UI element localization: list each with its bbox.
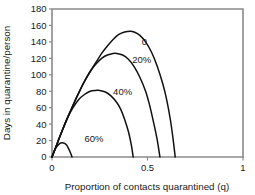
chart-figure: 020406080100120140160180 00.51 020%40%60… bbox=[0, 0, 255, 195]
chart-axes bbox=[52, 9, 243, 157]
y-tick-label: 20 bbox=[36, 135, 47, 146]
curve-series-3 bbox=[52, 143, 72, 157]
y-tick-label: 60 bbox=[36, 102, 47, 113]
chart-tick-marks bbox=[49, 9, 243, 161]
y-axis-title: Days in quarantine/person bbox=[1, 26, 12, 140]
x-tick-label: 0.5 bbox=[141, 162, 154, 173]
y-tick-label: 40 bbox=[36, 119, 47, 130]
y-tick-label: 140 bbox=[31, 36, 47, 47]
x-axis-title: Proportion of contacts quarantined (q) bbox=[65, 181, 229, 192]
y-tick-label: 0 bbox=[41, 151, 46, 162]
curve-label-0: 0 bbox=[142, 36, 147, 47]
y-tick-label: 120 bbox=[31, 53, 47, 64]
curve-series-1 bbox=[52, 53, 160, 157]
x-axis-tick-labels: 00.51 bbox=[49, 162, 245, 173]
y-tick-label: 80 bbox=[36, 86, 47, 97]
y-tick-label: 160 bbox=[31, 20, 47, 31]
curve-label-3: 60% bbox=[84, 133, 104, 144]
x-tick-label: 0 bbox=[49, 162, 54, 173]
quarantine-days-line-chart: 020406080100120140160180 00.51 020%40%60… bbox=[0, 0, 255, 195]
y-axis-tick-labels: 020406080100120140160180 bbox=[31, 3, 47, 162]
curve-series-2 bbox=[52, 90, 133, 157]
plot-frame bbox=[52, 9, 243, 157]
y-tick-label: 100 bbox=[31, 69, 47, 80]
curve-label-2: 40% bbox=[113, 86, 133, 97]
x-tick-label: 1 bbox=[240, 162, 245, 173]
y-tick-label: 180 bbox=[31, 3, 47, 14]
curve-label-1: 20% bbox=[132, 54, 152, 65]
